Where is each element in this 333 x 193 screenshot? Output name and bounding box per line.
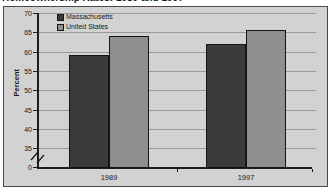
- legend-swatch-icon: [57, 14, 64, 21]
- chart-title: Homeownership Rates: 1989 and 1997: [2, 0, 302, 3]
- legend-swatch-icon: [57, 24, 64, 31]
- chart-title-clipped: Homeownership Rates: 1989 and 1997: [2, 0, 302, 5]
- bar-1997-united-states: [246, 30, 286, 168]
- legend-item-united-states: United States: [57, 22, 113, 32]
- bar-1989-united-states: [109, 36, 149, 168]
- legend-item-massachusetts: Massachusetts: [57, 12, 113, 22]
- y-axis-label-40: 40: [14, 126, 32, 133]
- plot-area: 3540455055606570019891997: [4, 7, 327, 186]
- bar-1989-massachusetts: [69, 55, 109, 168]
- x-axis-tick-1: [312, 169, 313, 172]
- legend-label: United States: [66, 23, 108, 31]
- y-axis-label-60: 60: [14, 49, 32, 56]
- y-axis-label-70: 70: [14, 10, 32, 17]
- y-axis-label-65: 65: [14, 29, 32, 36]
- chart-frame: 3540455055606570019891997 Percent Massac…: [3, 6, 328, 187]
- y-axis-label-45: 45: [14, 107, 32, 114]
- legend: MassachusettsUnited States: [57, 12, 113, 32]
- legend-label: Massachusetts: [66, 13, 113, 21]
- y-axis-title: Percent: [12, 71, 21, 97]
- y-axis-label-0: 0: [14, 164, 32, 171]
- bar-1997-massachusetts: [206, 44, 246, 168]
- y-axis-label-35: 35: [14, 145, 32, 152]
- x-axis-tick-0: [177, 169, 178, 172]
- y-axis: [37, 13, 39, 169]
- x-category-label-1989: 1989: [89, 174, 129, 182]
- page: Homeownership Rates: 1989 and 1997 35404…: [0, 0, 333, 193]
- x-category-label-1997: 1997: [226, 174, 266, 182]
